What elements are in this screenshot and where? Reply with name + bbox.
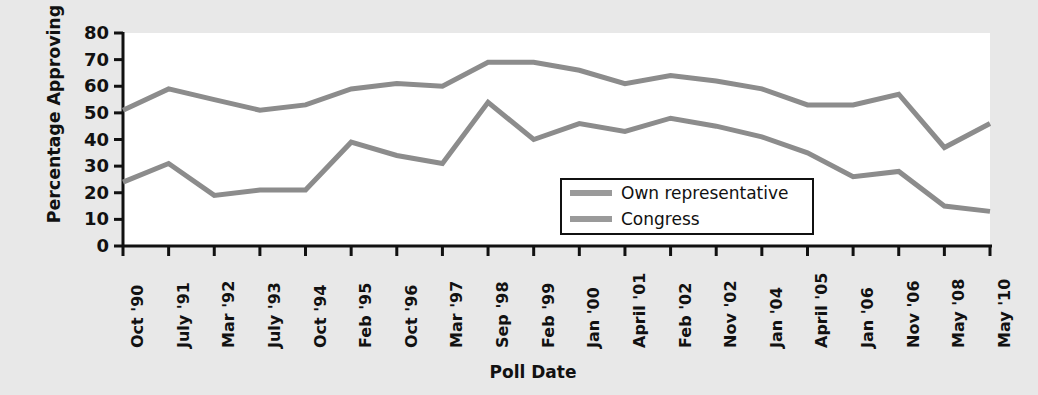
series-line-own-representative	[123, 62, 990, 147]
legend-swatch-congress	[570, 216, 612, 222]
legend-item-congress: Congress	[570, 206, 812, 232]
data-series-lines	[123, 62, 990, 211]
legend-label-congress: Congress	[621, 211, 700, 228]
legend-label-own-representative: Own representative	[621, 185, 789, 202]
x-axis-title: Poll Date	[14, 362, 1038, 382]
legend-item-own-representative: Own representative	[570, 180, 812, 206]
chart-container: Percentage Approving 80706050403020100 O…	[0, 0, 1038, 395]
legend-swatch-own-representative	[570, 190, 612, 196]
chart-plot-svg	[0, 0, 1038, 395]
series-line-congress	[123, 102, 990, 211]
chart-legend: Own representative Congress	[560, 178, 814, 235]
